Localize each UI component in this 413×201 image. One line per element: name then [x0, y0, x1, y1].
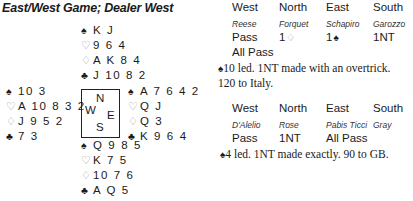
- north-diamonds: ♢A K 8 4: [81, 53, 147, 68]
- spade-icon: ♠: [333, 32, 338, 43]
- compass-box: N W E S: [81, 89, 120, 138]
- south-clubs: ♣A Q 5: [81, 183, 142, 198]
- club-icon: ♣: [81, 68, 93, 83]
- heart-icon: ♡: [81, 153, 93, 168]
- diamond-icon: ♢: [6, 114, 18, 129]
- header-north: North: [279, 102, 307, 114]
- result-note-2: ♠4 led. 1NT made exactly. 90 to GB.: [220, 147, 389, 162]
- header-east: East: [326, 1, 349, 13]
- player-north: Forquet: [279, 19, 308, 29]
- south-spades: ♠Q 9 8 5: [81, 138, 142, 153]
- header-north: North: [279, 1, 307, 13]
- east-diamonds: ♢Q 3: [128, 114, 200, 129]
- club-icon: ♣: [6, 129, 18, 144]
- header-west: West: [232, 102, 258, 114]
- diamond-icon: ♢: [81, 168, 93, 183]
- east-spades: ♠A 7 6 4 2: [128, 84, 200, 99]
- west-diamonds: ♢J 9 5 2: [6, 114, 86, 129]
- player-south: Gray: [373, 120, 391, 130]
- west-clubs: ♣7 3: [6, 129, 86, 144]
- compass-south: S: [96, 121, 104, 133]
- header-south: South: [373, 1, 403, 13]
- spade-icon: ♠: [6, 84, 18, 99]
- north-spades: ♠K J: [81, 23, 147, 38]
- compass-north: N: [96, 92, 104, 104]
- heart-icon: ♡: [128, 99, 140, 114]
- header-west: West: [232, 1, 258, 13]
- player-south: Garozzo: [373, 19, 405, 29]
- bid-north: 1NT: [279, 132, 301, 144]
- compass-west: W: [85, 104, 96, 116]
- diamond-icon: ♢: [81, 53, 93, 68]
- east-hand: ♠A 7 6 4 2 ♡Q J ♢Q 3 ♣K 9 6 4: [128, 84, 200, 144]
- bid-west: Pass: [232, 132, 258, 144]
- south-diamonds: ♢10 7 6: [81, 168, 142, 183]
- diamond-icon: ♢: [128, 114, 140, 129]
- heart-icon: ♡: [6, 99, 18, 114]
- bid-north: 1♢: [279, 31, 295, 43]
- south-hearts: ♡K 7 5: [81, 153, 142, 168]
- compass-east: E: [107, 109, 115, 121]
- player-east: Pabis Ticci: [326, 120, 367, 130]
- spade-icon: ♠: [128, 84, 140, 99]
- bid-east: All Pass: [326, 132, 368, 144]
- spade-icon: ♠: [81, 23, 93, 38]
- bid-east: 1♠: [326, 31, 339, 43]
- bid-south: 1NT: [373, 31, 395, 43]
- bid-west: Pass: [232, 31, 258, 43]
- west-hand: ♠10 3 ♡A 10 8 3 2 ♢J 9 5 2 ♣7 3: [6, 84, 86, 144]
- club-icon: ♣: [81, 183, 93, 198]
- north-hearts: ♡9 6 4: [81, 38, 147, 53]
- south-hand: ♠Q 9 8 5 ♡K 7 5 ♢10 7 6 ♣A Q 5: [81, 138, 142, 198]
- header-east: East: [326, 102, 349, 114]
- player-east: Schapiro: [326, 19, 360, 29]
- diamond-icon: ♢: [286, 32, 295, 43]
- bid-all-pass: All Pass: [232, 46, 274, 58]
- north-clubs: ♣J 10 8 2: [81, 68, 147, 83]
- result-note-1: ♠10 led. 1NT made with an overtrick. 120…: [218, 61, 390, 90]
- player-west: D'Alelio: [232, 120, 261, 130]
- player-west: Reese: [232, 19, 257, 29]
- heart-icon: ♡: [81, 38, 93, 53]
- east-hearts: ♡Q J: [128, 99, 200, 114]
- deal-title: East/West Game; Dealer West: [2, 1, 173, 15]
- west-spades: ♠10 3: [6, 84, 86, 99]
- header-south: South: [373, 102, 403, 114]
- north-hand: ♠K J ♡9 6 4 ♢A K 8 4 ♣J 10 8 2: [81, 23, 147, 83]
- player-north: Rose: [279, 120, 299, 130]
- west-hearts: ♡A 10 8 3 2: [6, 99, 86, 114]
- spade-icon: ♠: [81, 138, 93, 153]
